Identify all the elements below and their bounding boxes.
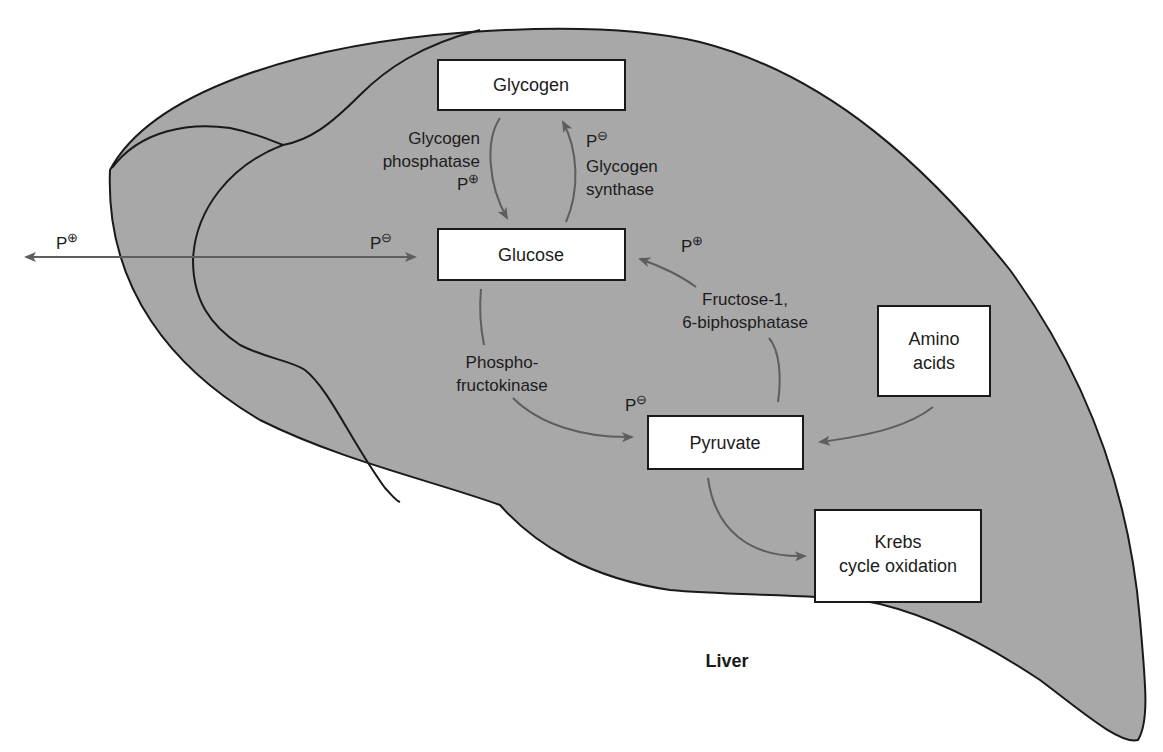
svg-text:phosphatase: phosphatase [383, 152, 480, 171]
liver-title: Liver [705, 651, 748, 671]
svg-text:Glycogen: Glycogen [408, 129, 480, 148]
amino-acids-label-line2: acids [913, 353, 955, 373]
pyruvate-label: Pyruvate [689, 433, 760, 453]
svg-text:Phospho-: Phospho- [466, 353, 539, 372]
glycogen-box: Glycogen [438, 60, 625, 110]
svg-text:fructokinase: fructokinase [456, 376, 548, 395]
glucose-box: Glucose [438, 229, 625, 280]
glucose-label: Glucose [498, 245, 564, 265]
svg-text:Glycogen: Glycogen [586, 157, 658, 176]
krebs-box: Krebs cycle oxidation [815, 510, 981, 602]
krebs-label-line1: Krebs [874, 532, 921, 552]
krebs-label-line2: cycle oxidation [839, 556, 957, 576]
glycogen-label: Glycogen [493, 75, 569, 95]
pyruvate-box: Pyruvate [648, 416, 803, 469]
svg-text:6-biphosphatase: 6-biphosphatase [682, 313, 808, 332]
amino-acids-box: Amino acids [878, 306, 990, 396]
glucose-export-regulation: P⊕ [56, 230, 78, 253]
amino-acids-label-line1: Amino [908, 329, 959, 349]
svg-text:synthase: synthase [586, 180, 654, 199]
liver-metabolism-diagram: Glycogen Glucose Pyruvate Amino acids Kr… [0, 0, 1163, 752]
svg-text:Fructose-1,: Fructose-1, [702, 290, 788, 309]
